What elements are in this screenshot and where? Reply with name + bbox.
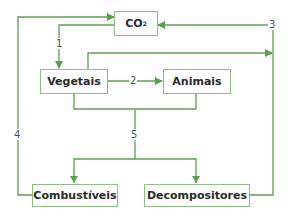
edge-label-2: 2 bbox=[129, 75, 137, 86]
co2-subscript: 2 bbox=[143, 20, 147, 27]
node-co2: CO2 bbox=[114, 11, 158, 36]
edge-label-3: 3 bbox=[268, 19, 276, 30]
edge-label-4: 4 bbox=[13, 129, 21, 140]
node-decompositores: Decompositores bbox=[144, 184, 250, 207]
node-vegetais: Vegetais bbox=[40, 69, 108, 94]
co2-label: CO bbox=[125, 17, 142, 30]
node-combustiveis: Combustíveis bbox=[32, 184, 118, 207]
node-animais: Animais bbox=[163, 69, 231, 94]
edge-label-1: 1 bbox=[55, 38, 63, 49]
edge-label-5: 5 bbox=[130, 129, 138, 140]
